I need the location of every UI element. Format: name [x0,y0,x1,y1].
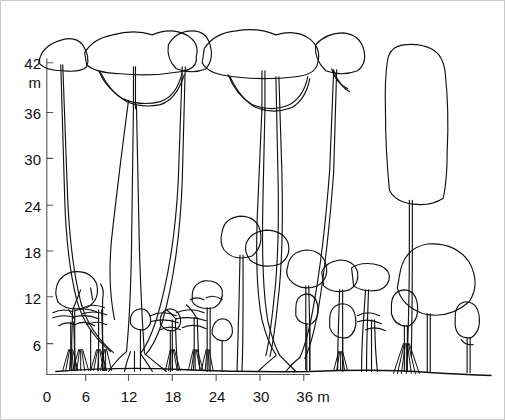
y-tick-6: 6 [11,338,41,353]
x-tick-30: 30 [247,389,275,404]
figure-frame: 42 m 36 30 24 18 12 6 0 6 12 18 24 30 36… [0,0,505,420]
x-tick-36: 36 m [287,389,339,404]
y-tick-24: 24 [11,199,41,214]
canopy-tree-group [221,216,475,372]
y-tick-30: 30 [11,152,41,167]
columnar-tree [385,44,448,356]
x-tick-12: 12 [115,389,143,404]
y-tick-18: 18 [11,245,41,260]
emergent-tree-2 [85,31,197,353]
y-axis-unit: m [11,75,41,90]
y-tick-36: 36 [11,106,41,121]
x-axis [47,375,310,381]
x-tick-24: 24 [203,389,231,404]
emergent-tree-3 [140,31,211,355]
y-tick-12: 12 [11,291,41,306]
y-tick-42: 42 [11,56,41,71]
x-tick-6: 6 [72,389,100,404]
forest-profile-chart [1,1,504,419]
y-axis [47,59,53,375]
x-tick-18: 18 [159,389,187,404]
x-tick-0: 0 [33,389,61,404]
emergent-tree-4 [202,30,319,357]
